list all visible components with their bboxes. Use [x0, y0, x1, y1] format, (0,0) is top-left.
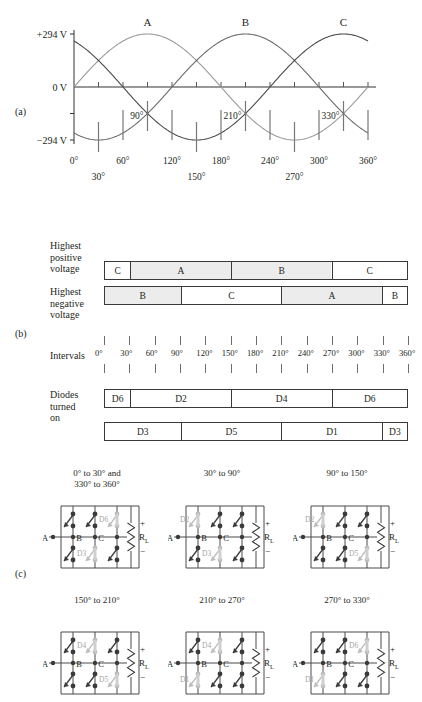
bar-segment: B: [105, 287, 181, 304]
diode-active: [211, 638, 222, 655]
diode-inactive: [336, 512, 347, 529]
x-axis-tick-label: 240°: [261, 156, 279, 166]
interval-tick-label: 270°: [323, 348, 339, 358]
interval-tick: [307, 364, 308, 373]
bar-segment: C: [105, 262, 130, 279]
polarity-plus: +: [390, 644, 395, 654]
circuit-90-150[interactable]: ABCRL+−: [293, 498, 405, 574]
load-resistor: [128, 523, 135, 551]
diode-active: [358, 546, 369, 563]
series-label-B: B: [242, 16, 249, 28]
diode-inactive: [233, 512, 244, 529]
x-axis-tick-label: 360°: [359, 156, 377, 166]
diodes-lower-bar: D3D5D1D3: [104, 422, 408, 441]
load-resistor: [253, 649, 260, 677]
three-phase-waveform-chart: ABC+294 V0 V−294 V90°210°330°0°60°120°18…: [0, 0, 422, 232]
circuit-270-330[interactable]: ABCRL+−: [293, 624, 405, 700]
bar-segment-label: A: [178, 266, 185, 276]
highest-positive-voltage-label: Highest positive voltage: [50, 240, 82, 275]
bar-segment-label: D3: [389, 427, 401, 437]
circuit-270-330-title: 270° to 330°: [287, 595, 407, 606]
phase-node-label-C: C: [98, 533, 104, 543]
interval-tick: [332, 336, 333, 345]
y-axis-tick-label: 0 V: [52, 82, 67, 93]
interval-tick-label: 0°: [95, 348, 103, 358]
active-diode-label: D6: [349, 641, 358, 650]
interval-tick: [129, 336, 130, 345]
active-diode-label: D2: [305, 515, 314, 524]
interval-tick-label: 120°: [196, 348, 212, 358]
circuit-title-line: 30° to 90°: [162, 468, 282, 479]
bar-segment: D2: [130, 390, 231, 407]
circuit-30-90-title: 30° to 90°: [162, 468, 282, 479]
diode-active: [86, 638, 97, 655]
bar-segment-label: D5: [226, 427, 238, 437]
diode-inactive: [314, 638, 325, 655]
circuit-210-270[interactable]: ABCRL+−: [168, 624, 280, 700]
interval-tick: [357, 364, 358, 373]
bar-segment-label: D6: [364, 394, 376, 404]
polarity-plus: +: [265, 518, 270, 528]
interval-tick: [231, 364, 232, 373]
diode-inactive: [336, 672, 347, 689]
diode-inactive: [233, 672, 244, 689]
diode-inactive: [86, 672, 97, 689]
circuit-title-line: 90° to 150°: [287, 468, 407, 479]
diode-active: [108, 512, 119, 529]
circuit-150-210[interactable]: ABCRL+−: [43, 624, 155, 700]
interval-tick: [104, 364, 105, 373]
load-resistor: [378, 523, 385, 551]
diode-active: [314, 672, 325, 689]
phase-node-label-A: A: [43, 659, 49, 669]
x-axis-tick-label: 180°: [212, 156, 230, 166]
diode-inactive: [358, 672, 369, 689]
intervals-scale: 0°30°60°90°120°150°180°210°240°270°300°3…: [100, 336, 412, 376]
bar-segment: A: [281, 287, 382, 304]
load-resistor: [378, 649, 385, 677]
waveform-annotation: 90°: [130, 111, 144, 121]
interval-tick-label: 30°: [120, 348, 132, 358]
polarity-minus: −: [390, 546, 395, 556]
x-axis-tick-label: 150°: [187, 172, 205, 182]
phase-node-label-C: C: [98, 659, 104, 669]
active-diode-label: D1: [180, 675, 189, 684]
active-diode-label: D3: [202, 549, 211, 558]
x-axis-tick-label: 60°: [116, 156, 130, 166]
active-diode-label: D6: [99, 515, 108, 524]
x-axis-tick-label: 0°: [70, 156, 79, 166]
diode-inactive: [211, 672, 222, 689]
interval-tick-label: 180°: [247, 348, 263, 358]
interval-tick: [256, 364, 257, 373]
interval-tick: [383, 336, 384, 345]
diode-inactive: [358, 512, 369, 529]
diode-inactive: [314, 546, 325, 563]
panel-c-label: (c): [15, 568, 26, 579]
load-resistor-subscript: L: [395, 537, 399, 544]
active-diode-label: D2: [180, 515, 189, 524]
phase-node-label-B: B: [76, 533, 82, 543]
diode-active: [314, 512, 325, 529]
polarity-minus: −: [265, 546, 270, 556]
bar-segment-label: B: [278, 266, 284, 276]
diode-inactive: [189, 638, 200, 655]
diode-active: [108, 672, 119, 689]
active-diode-label: D4: [202, 641, 211, 650]
interval-tick-label: 360°: [399, 348, 415, 358]
diode-inactive: [108, 638, 119, 655]
diode-active: [189, 512, 200, 529]
circuit-30-90[interactable]: ABCRL+−: [168, 498, 280, 574]
intervals-label: Intervals: [50, 350, 85, 362]
phase-node-label-A: A: [293, 659, 299, 669]
circuit-title-line: 150° to 210°: [37, 595, 157, 606]
bar-segment-label: A: [329, 291, 336, 301]
phase-node-label-A: A: [43, 533, 49, 543]
interval-tick: [408, 336, 409, 345]
circuit-0-30-330-360[interactable]: ABCRL+−: [43, 498, 155, 574]
bar-segment: A: [130, 262, 231, 279]
interval-tick: [408, 364, 409, 373]
diode-active: [86, 546, 97, 563]
diode-inactive: [211, 512, 222, 529]
interval-tick-label: 90°: [171, 348, 183, 358]
bar-segment: D6: [332, 390, 408, 407]
circuit-0-30-330-360-title: 0° to 30° and330° to 360°: [37, 468, 157, 490]
